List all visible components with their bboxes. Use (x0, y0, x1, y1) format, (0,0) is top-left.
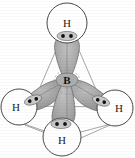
electron-dot (69, 34, 73, 38)
hydrogen-right-label: H (115, 102, 123, 114)
hydrogen-left: H (1, 89, 37, 125)
hydrogen-bottom-front-label: H (58, 134, 66, 146)
hydrogen-top-label: H (63, 17, 71, 29)
electron-dot (63, 122, 67, 126)
electron-pair-top (57, 31, 77, 40)
hydrogen-right: H (97, 90, 133, 126)
electron-dot (61, 34, 65, 38)
hydrogen-left-label: H (12, 101, 20, 113)
boron-label: B (63, 74, 71, 86)
electron-pair-bottom-front (51, 119, 71, 128)
electron-dot (55, 122, 59, 126)
sp3-hybridization-diagram: B H H H H (0, 0, 135, 158)
